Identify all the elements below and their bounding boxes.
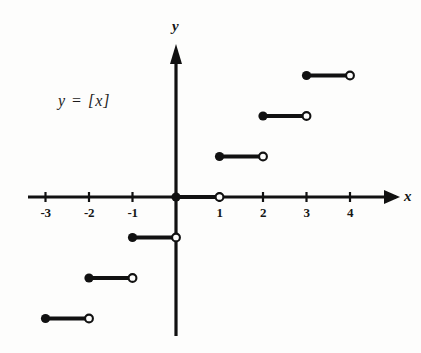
- open-endpoint-circle: [172, 234, 180, 242]
- plot-canvas: [0, 0, 421, 353]
- x-tick-label: -3: [40, 205, 50, 221]
- x-axis-label: x: [404, 188, 412, 205]
- step-function-figure: -3-2-11234 x y y = [x]: [0, 0, 421, 353]
- open-endpoint-circle: [259, 153, 267, 161]
- closed-endpoint-dot: [41, 314, 50, 323]
- equation-annotation: y = [x]: [58, 92, 110, 110]
- x-tick-label: -1: [127, 205, 137, 221]
- open-endpoint-circle: [303, 112, 311, 120]
- x-axis-arrowhead: [384, 190, 400, 204]
- open-endpoint-circle: [216, 193, 224, 201]
- open-endpoint-circle: [85, 315, 93, 323]
- open-endpoint-circle: [346, 72, 354, 80]
- closed-endpoint-dot: [128, 233, 137, 242]
- closed-endpoint-dot: [171, 192, 180, 201]
- x-tick-label: 2: [260, 205, 266, 221]
- closed-endpoint-dot: [302, 71, 311, 80]
- y-axis-arrowhead: [170, 44, 182, 64]
- closed-endpoint-dot: [258, 111, 267, 120]
- x-tick-label: 4: [347, 205, 353, 221]
- open-endpoint-circle: [129, 274, 137, 282]
- x-tick-label: 1: [216, 205, 222, 221]
- x-tick-label: -2: [84, 205, 94, 221]
- axes-group: [28, 44, 400, 336]
- y-axis-label: y: [172, 18, 179, 35]
- closed-endpoint-dot: [84, 273, 93, 282]
- closed-endpoint-dot: [215, 152, 224, 161]
- x-tick-label: 3: [303, 205, 309, 221]
